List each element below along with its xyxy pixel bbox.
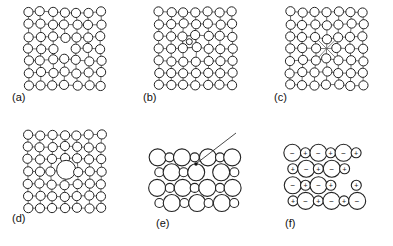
lattice-atom [297, 81, 306, 90]
lattice-atom [167, 8, 176, 17]
lattice-atom [322, 54, 331, 63]
lattice-atom [24, 7, 33, 16]
cation-charge-label: + [291, 198, 295, 205]
lattice-atom [60, 203, 69, 212]
anion-charge-label: − [303, 197, 308, 206]
lattice-atom [167, 44, 176, 53]
lattice-atom [154, 80, 163, 89]
lattice-atom [358, 8, 367, 17]
lattice-atom [97, 155, 106, 164]
anion-charge-label: − [329, 165, 334, 174]
lattice-atom [36, 19, 45, 28]
lattice-atom [84, 155, 93, 164]
lattice-atom [60, 192, 69, 201]
cation-charge-label: + [303, 150, 307, 157]
lattice-atom [59, 80, 68, 89]
panel-e-label: (e) [156, 218, 169, 229]
lattice-atom [286, 7, 295, 16]
anion-circle [149, 149, 166, 166]
lattice-atom [72, 191, 81, 200]
lattice-atom [83, 43, 92, 52]
lattice-atom [154, 7, 163, 16]
lattice-atom [71, 8, 80, 17]
lattice-atom [23, 154, 32, 163]
lattice-atom [311, 20, 320, 29]
lattice-atom [322, 8, 331, 17]
lattice-atom [73, 180, 82, 189]
lattice-atom [35, 7, 44, 16]
lattice-atom [286, 44, 295, 53]
lattice-atom [311, 56, 320, 65]
lattice-atom [85, 179, 94, 188]
cation-charge-label: + [342, 198, 346, 205]
anion-circle [173, 149, 190, 166]
lattice-atom [96, 180, 105, 189]
lattice-atom [24, 204, 33, 213]
lattice-atom [286, 80, 295, 89]
lattice-atom [24, 19, 33, 28]
defect-pointer-tip [194, 162, 197, 165]
lattice-atom [48, 20, 57, 29]
lattice-atom [48, 192, 57, 201]
anion-charge-label: − [329, 197, 334, 206]
anion-circle [149, 179, 166, 196]
lattice-atom [285, 57, 294, 66]
lattice-atom [359, 20, 368, 29]
lattice-atom [60, 181, 69, 190]
lattice-atom [23, 142, 32, 151]
lattice-atom [96, 67, 105, 76]
lattice-atom [227, 19, 236, 28]
interstitial-atom [186, 39, 192, 45]
lattice-atom [60, 131, 69, 140]
lattice-atom [345, 44, 354, 53]
cation-charge-label: + [329, 150, 333, 157]
lattice-atom [36, 32, 45, 41]
lattice-atom [310, 81, 319, 90]
lattice-atom [48, 32, 57, 41]
cation-charge-label: + [329, 182, 333, 189]
lattice-atom [23, 192, 32, 201]
lattice-atom [154, 44, 163, 53]
lattice-atom [36, 131, 45, 140]
lattice-atom [216, 20, 225, 29]
panel-e-diagram [131, 115, 262, 246]
lattice-atom [346, 69, 355, 78]
lattice-atom [334, 69, 343, 78]
lattice-atom [322, 35, 331, 44]
lattice-atom [95, 45, 104, 54]
lattice-atom [49, 7, 58, 16]
cation-circle [165, 153, 174, 162]
lattice-atom [204, 31, 213, 40]
lattice-atom [167, 80, 176, 89]
lattice-atom [346, 8, 355, 17]
lattice-atom [35, 204, 44, 213]
lattice-atom [359, 81, 368, 90]
lattice-atom [286, 20, 295, 29]
lattice-atom [24, 33, 33, 42]
lattice-atom [35, 56, 44, 65]
cation-charge-label: + [303, 182, 307, 189]
lattice-atom [24, 167, 33, 176]
lattice-atom [321, 80, 330, 89]
lattice-atom [178, 44, 187, 53]
lattice-atom [84, 130, 93, 139]
lattice-atom [334, 20, 343, 29]
anion-charge-label: − [290, 181, 295, 190]
lattice-atom [85, 167, 94, 176]
lattice-atom [72, 131, 81, 140]
panel-d-substitutional [0, 115, 131, 246]
lattice-atom [23, 44, 32, 53]
lattice-atom [72, 154, 81, 163]
lattice-atom [298, 43, 307, 52]
lattice-atom [204, 56, 213, 65]
cation-circle [230, 168, 239, 177]
lattice-atom [297, 32, 306, 41]
lattice-atom [346, 81, 355, 90]
lattice-atom [48, 130, 57, 139]
cation-charge-label: + [343, 166, 347, 173]
cation-circle [155, 168, 164, 177]
lattice-atom [228, 32, 237, 41]
panel-b-label: (b) [143, 92, 156, 103]
lattice-atom [97, 167, 106, 176]
lattice-atom [179, 8, 188, 17]
